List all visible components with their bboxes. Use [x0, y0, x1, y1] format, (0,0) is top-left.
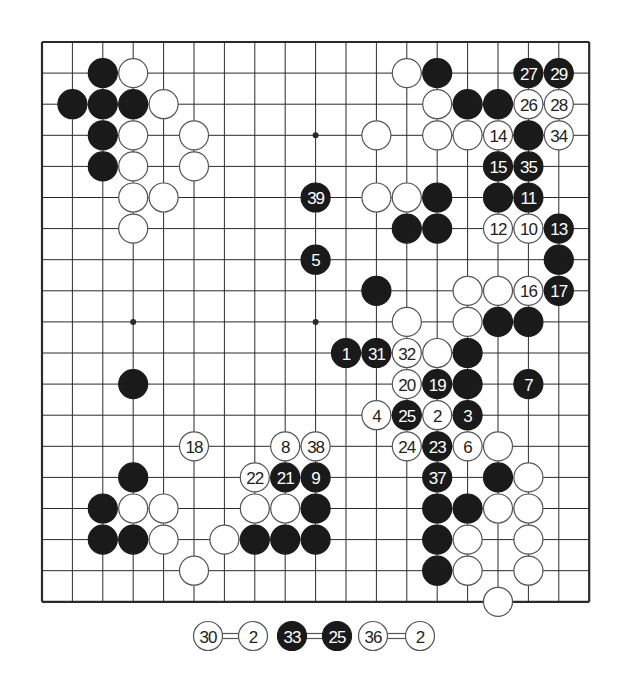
- black-stone: [453, 494, 482, 523]
- black-stone: 1: [332, 339, 361, 368]
- move-number: 29: [550, 65, 567, 84]
- black-stone-icon: [423, 525, 452, 554]
- black-stone-icon: [271, 525, 300, 554]
- white-stone-icon: [514, 525, 543, 554]
- move-number: 24: [398, 438, 415, 457]
- black-stone: 29: [544, 59, 573, 88]
- black-stone-icon: [484, 183, 513, 212]
- black-stone-icon: [301, 494, 330, 523]
- black-stone: [119, 90, 148, 119]
- white-stone: 26: [514, 90, 543, 119]
- white-stone: [484, 276, 513, 305]
- white-stone: [180, 121, 209, 150]
- white-stone: [180, 152, 209, 181]
- white-stone-icon: [392, 183, 421, 212]
- white-stone: [271, 494, 300, 523]
- white-stone: [210, 525, 239, 554]
- white-stone: [119, 214, 148, 243]
- white-stone: [423, 121, 452, 150]
- black-stone: [240, 525, 269, 554]
- black-stone-icon: [484, 463, 513, 492]
- move-number: 36: [365, 628, 382, 647]
- white-stone: 2: [423, 401, 452, 430]
- move-number: 15: [490, 158, 507, 177]
- white-stone: [423, 90, 452, 119]
- black-stone: [484, 307, 513, 336]
- move-number: 1: [342, 345, 351, 364]
- black-stone: 39: [301, 183, 330, 212]
- white-stone: [423, 339, 452, 368]
- black-stone: 11: [514, 183, 543, 212]
- white-stone: [119, 183, 148, 212]
- white-stone-icon: [453, 121, 482, 150]
- move-number: 18: [186, 438, 203, 457]
- move-number: 8: [281, 438, 290, 457]
- white-stone-icon: [119, 121, 148, 150]
- black-stone-icon: [544, 245, 573, 274]
- move-number: 34: [550, 127, 567, 146]
- white-stone: [362, 121, 391, 150]
- black-stone: [514, 307, 543, 336]
- white-stone: 22: [240, 463, 269, 492]
- move-number: 27: [520, 65, 537, 84]
- black-stone: [484, 183, 513, 212]
- move-number: 9: [311, 469, 320, 488]
- black-stone: 7: [514, 370, 543, 399]
- black-stone: [362, 276, 391, 305]
- black-stone-icon: [88, 59, 117, 88]
- move-number: 17: [550, 282, 567, 301]
- move-number: 26: [520, 96, 537, 115]
- white-stone: [453, 307, 482, 336]
- white-stone: [119, 494, 148, 523]
- move-number: 13: [550, 220, 567, 239]
- move-number: 4: [372, 407, 381, 426]
- black-stone: [544, 245, 573, 274]
- move-number: 16: [520, 282, 537, 301]
- move-number: 30: [200, 628, 217, 647]
- black-stone: [301, 494, 330, 523]
- white-stone-icon: [362, 183, 391, 212]
- white-stone-icon: [514, 463, 543, 492]
- white-stone-icon: [180, 121, 209, 150]
- white-stone-icon: [180, 556, 209, 585]
- white-stone: [514, 525, 543, 554]
- move-number: 22: [246, 469, 263, 488]
- white-stone-icon: [392, 307, 421, 336]
- black-stone: [423, 214, 452, 243]
- black-stone: [119, 370, 148, 399]
- black-stone: [423, 183, 452, 212]
- white-stone: 4: [362, 401, 391, 430]
- black-stone-icon: [514, 121, 543, 150]
- caption-equivalence: 302: [194, 622, 268, 651]
- black-stone: [88, 494, 117, 523]
- white-stone: 6: [453, 432, 482, 461]
- white-stone-icon: [180, 152, 209, 181]
- white-stone: 14: [484, 121, 513, 150]
- black-stone-icon: [88, 494, 117, 523]
- white-stone: [119, 121, 148, 150]
- white-stone: [453, 121, 482, 150]
- black-stone: 13: [544, 214, 573, 243]
- black-stone: 31: [362, 339, 391, 368]
- white-stone-icon: [149, 183, 178, 212]
- star-point: [130, 319, 136, 325]
- move-number: 11: [521, 189, 537, 208]
- star-point: [313, 132, 319, 138]
- black-stone-icon: [88, 90, 117, 119]
- white-stone: 34: [544, 121, 573, 150]
- white-stone: [484, 494, 513, 523]
- black-stone-icon: [119, 463, 148, 492]
- black-stone-icon: [423, 214, 452, 243]
- white-stone-icon: [453, 307, 482, 336]
- star-point: [313, 319, 319, 325]
- move-number: 35: [520, 158, 537, 177]
- move-number: 38: [307, 438, 324, 457]
- move-number: 3: [463, 407, 472, 426]
- move-number: 10: [520, 220, 537, 239]
- white-stone-icon: [453, 556, 482, 585]
- white-stone: [362, 183, 391, 212]
- move-number: 20: [398, 376, 415, 395]
- black-stone: [271, 525, 300, 554]
- white-stone: 12: [484, 214, 513, 243]
- black-stone: [453, 370, 482, 399]
